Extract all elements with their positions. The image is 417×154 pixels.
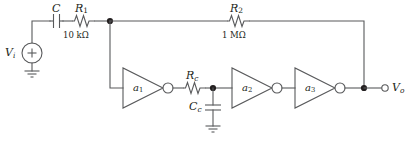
a1-input-wire (110, 21, 123, 88)
capacitor-c-symbol (50, 14, 63, 28)
amplifier-a3-label: a3 (305, 83, 315, 94)
ground-symbol-cc (206, 126, 221, 132)
resistor-rc-label: Rc (186, 70, 198, 82)
voltage-source-symbol (22, 43, 42, 71)
resistor-r1-label: R1 (75, 3, 88, 15)
ground-symbol-source (25, 71, 40, 77)
capacitor-c-label: C (52, 3, 60, 14)
output-terminal-circle (382, 85, 388, 91)
resistor-r2-label: R2 (230, 3, 243, 15)
resistor-r2-symbol (227, 16, 250, 27)
circuit-diagram: Vi C R1 10 kΩ R2 1 MΩ Rc Cc a1 a2 a3 Vo (0, 0, 417, 154)
capacitor-cc-label: Cc (189, 101, 202, 113)
circuit-schematic-svg (0, 0, 417, 154)
resistor-r1-symbol (72, 16, 95, 27)
capacitor-cc-symbol (205, 88, 221, 126)
amplifier-a2-label: a2 (242, 83, 252, 94)
resistor-r2-value: 1 MΩ (222, 31, 246, 40)
amplifier-a1-symbol (123, 68, 183, 108)
amplifier-a1-label: a1 (133, 83, 143, 94)
resistor-rc-symbol (183, 83, 206, 94)
resistor-r1-value: 10 kΩ (63, 31, 89, 40)
source-label: Vi (5, 47, 15, 59)
feedback-rail-right (250, 21, 364, 88)
output-label: Vo (392, 82, 404, 94)
